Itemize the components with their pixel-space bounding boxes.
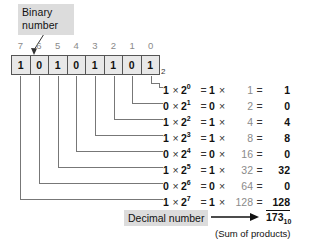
equals-sign-2: =: [253, 147, 266, 161]
equals-sign: =: [198, 115, 209, 129]
equation-row-0: 1×20=1×1=1: [163, 80, 290, 94]
equation-bit: 0: [163, 179, 170, 193]
product-bit: 0: [209, 179, 216, 193]
bit-cell: 0: [30, 55, 49, 75]
product-bit: 1: [209, 163, 216, 177]
multiply-sign: ×: [170, 83, 181, 97]
equals-sign-2: =: [253, 179, 266, 193]
product-bit: 1: [209, 83, 216, 97]
equals-sign: =: [198, 147, 209, 161]
power-exponent: 0: [187, 83, 191, 90]
power-exponent: 1: [187, 99, 191, 106]
bit-index: 0: [141, 39, 160, 52]
power-term: 22: [181, 112, 198, 129]
equation-bit: 0: [163, 99, 170, 113]
multiply-sign-2: ×: [216, 147, 228, 161]
bit-cell: 0: [122, 55, 141, 75]
bit-cell: 1: [48, 55, 67, 75]
place-weight: 8: [228, 131, 253, 145]
product-result: 0: [266, 179, 290, 193]
equals-sign: =: [198, 195, 209, 209]
equation-row-4: 0×24=0×16=0: [163, 144, 290, 158]
equals-sign-2: =: [253, 163, 266, 177]
figure-canvas: Binary number 7 6 5 4 3 2 1 0 1 0 1 0 1 …: [0, 0, 313, 247]
product-result: 32: [266, 163, 290, 177]
product-bit: 1: [209, 131, 216, 145]
equation-row-5: 1×25=1×32=32: [163, 160, 290, 174]
multiply-sign-2: ×: [216, 99, 228, 113]
leader-line-bit4: [76, 76, 163, 151]
binary-number-callout: Binary number: [18, 4, 74, 35]
power-exponent: 7: [187, 195, 191, 202]
leader-line-bit1: [132, 76, 163, 103]
power-term: 26: [181, 176, 198, 193]
power-exponent: 2: [187, 115, 191, 122]
leader-line-bit3: [95, 76, 163, 135]
callout-line-1: Binary: [22, 6, 71, 19]
multiply-sign: ×: [170, 115, 181, 129]
equals-sign-2: =: [253, 115, 266, 129]
decimal-total-value: 173: [266, 211, 284, 223]
bit-index: 1: [123, 39, 142, 52]
multiply-sign: ×: [170, 131, 181, 145]
place-weight: 128: [228, 195, 253, 209]
product-result: 128: [266, 195, 290, 211]
place-weight: 16: [228, 147, 253, 161]
bit-cell: 1: [141, 55, 161, 75]
place-weight: 32: [228, 163, 253, 177]
equation-bit: 1: [163, 115, 170, 129]
place-weight: 2: [228, 99, 253, 113]
power-term: 21: [181, 96, 198, 113]
multiply-sign-2: ×: [216, 163, 228, 177]
equals-sign: =: [198, 131, 209, 145]
bit-index: 7: [11, 39, 30, 52]
power-term: 25: [181, 160, 198, 177]
product-result: 0: [266, 99, 290, 113]
product-bit: 1: [209, 195, 216, 209]
bit-index: 3: [86, 39, 105, 52]
equals-sign-2: =: [253, 83, 266, 97]
bit-index: 2: [104, 39, 123, 52]
decimal-arrow-group: [211, 213, 259, 221]
product-bit: 0: [209, 147, 216, 161]
equals-sign: =: [198, 83, 209, 97]
multiply-sign-2: ×: [216, 83, 228, 97]
product-result: 0: [266, 147, 290, 161]
equals-sign: =: [198, 99, 209, 113]
power-exponent: 3: [187, 131, 191, 138]
equals-sign-2: =: [253, 99, 266, 113]
equation-row-3: 1×23=1×8=8: [163, 128, 290, 142]
place-weight: 4: [228, 115, 253, 129]
power-term: 23: [181, 128, 198, 145]
power-exponent: 4: [187, 147, 191, 154]
bit-index: 6: [30, 39, 49, 52]
multiply-sign-2: ×: [216, 115, 228, 129]
power-term: 24: [181, 144, 198, 161]
bit-cell: 1: [104, 55, 123, 75]
power-term: 20: [181, 80, 198, 97]
multiply-sign-2: ×: [216, 131, 228, 145]
multiply-sign: ×: [170, 147, 181, 161]
product-result: 8: [266, 131, 290, 145]
product-result: 1: [266, 83, 290, 97]
equals-sign: =: [198, 163, 209, 177]
place-weight: 1: [228, 83, 253, 97]
multiply-sign: ×: [170, 179, 181, 193]
leader-line-bit2: [114, 76, 163, 119]
bit-index: 4: [67, 39, 86, 52]
equation-row-6: 0×26=0×64=0: [163, 176, 290, 190]
leader-line-bit0: [151, 76, 163, 87]
power-exponent: 6: [187, 179, 191, 186]
bit-cell: 1: [11, 55, 30, 75]
product-bit: 1: [209, 115, 216, 129]
bit-index: 5: [48, 39, 67, 52]
multiply-sign: ×: [170, 195, 181, 209]
decimal-total: 17310: [266, 210, 291, 229]
equation-row-1: 0×21=0×2=0: [163, 96, 290, 110]
equals-sign: =: [198, 179, 209, 193]
equation-row-2: 1×22=1×4=4: [163, 112, 290, 126]
equation-row-7: 1×27=1×128=128: [163, 192, 290, 206]
multiply-sign-2: ×: [216, 179, 228, 193]
equation-bit: 1: [163, 131, 170, 145]
product-bit: 0: [209, 99, 216, 113]
